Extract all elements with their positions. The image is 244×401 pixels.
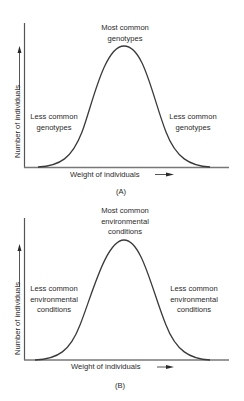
- x-axis-label-a: Weight of individuals: [70, 170, 140, 179]
- peak-label-line: genotypes: [88, 34, 162, 45]
- left-label-line: Less common: [23, 112, 85, 123]
- peak-label-line: Most common: [86, 206, 164, 217]
- right-label-line: genotypes: [162, 123, 224, 134]
- right-label-line: Less common: [162, 112, 224, 123]
- right-label-line: Less common: [160, 284, 228, 295]
- up-arrow-icon: [18, 46, 22, 53]
- y-axis-label-b: Number of individuals: [13, 282, 22, 355]
- left-label-line: genotypes: [23, 123, 85, 134]
- right-label-line: conditions: [160, 305, 228, 316]
- left-label-line: conditions: [20, 305, 88, 316]
- peak-label-line: Most common: [88, 23, 162, 34]
- peak-label-a: Most common genotypes: [88, 23, 162, 44]
- left-label-line: Less common: [20, 284, 88, 295]
- peak-label-line: environmental: [86, 217, 164, 228]
- x-axis-label-b: Weight of individuals: [71, 362, 141, 371]
- right-label-a: Less common genotypes: [162, 112, 224, 133]
- y-axis-label-a: Number of individuals: [13, 85, 22, 158]
- caption-b: (B): [105, 381, 135, 390]
- panel-a-genotypes: Most common genotypes Less common genoty…: [0, 0, 244, 200]
- left-label-line: environmental: [20, 295, 88, 306]
- left-label-b: Less common environmental conditions: [20, 284, 88, 316]
- left-label-a: Less common genotypes: [23, 112, 85, 133]
- panel-b-environment: Most common environmental conditions Les…: [0, 195, 244, 401]
- right-label-b: Less common environmental conditions: [160, 284, 228, 316]
- right-arrow-icon: [166, 173, 174, 177]
- up-arrow-icon: [18, 244, 22, 251]
- peak-label-b: Most common environmental conditions: [86, 206, 164, 238]
- right-label-line: environmental: [160, 295, 228, 306]
- peak-label-line: conditions: [86, 227, 164, 238]
- right-arrow-icon: [166, 365, 174, 369]
- bell-curve-a: [38, 46, 210, 167]
